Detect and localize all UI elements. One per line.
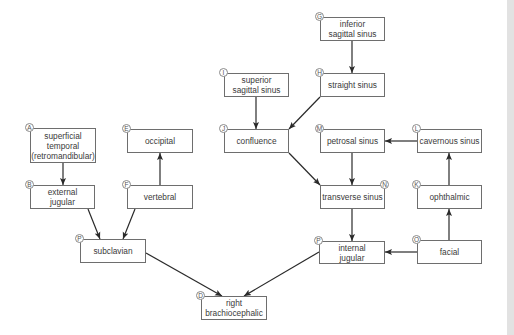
node-label: superior sagittal sinus: [233, 75, 281, 95]
node-label: inferior sagittal sinus: [329, 19, 377, 39]
node-label: straight sinus: [328, 80, 377, 90]
arrow-b-to-p1: [88, 209, 100, 239]
arrow-p1-to-d: [146, 253, 222, 296]
node-vertebral: vertebral: [127, 185, 193, 209]
node-label: cavernous sinus: [420, 136, 480, 146]
node-letter-badge: P: [75, 234, 84, 243]
node-straight-sinus: straight sinus: [320, 73, 385, 97]
node-facial: facial: [417, 240, 482, 264]
node-label: internal jugular: [338, 243, 365, 263]
node-label: external jugular: [48, 187, 78, 207]
node-letter-badge: F: [122, 180, 131, 189]
node-label: ophthalmic: [429, 192, 469, 202]
node-inferior-sagittal-sinus: inferior sagittal sinus: [320, 17, 385, 41]
node-letter-badge: M: [315, 124, 324, 133]
node-external-jugular: external jugular: [30, 185, 95, 209]
node-letter-badge: B: [25, 180, 34, 189]
venous-drainage-diagram: superficial temporal (retromandibular)Ae…: [0, 0, 514, 335]
node-subclavian: subclavian: [80, 239, 146, 263]
node-label: right brachiocephalic: [205, 298, 263, 318]
node-letter-badge: P: [314, 236, 323, 245]
node-label: vertebral: [144, 192, 176, 202]
arrow-j-to-n: [289, 153, 320, 185]
node-label: superficial temporal (retromandibular): [31, 131, 95, 161]
arrow-f-to-p1: [123, 209, 135, 239]
node-letter-badge: E: [122, 124, 131, 133]
node-letter-badge: I: [219, 68, 228, 77]
node-right-brachiocephalic: right brachiocephalic: [201, 296, 267, 320]
node-letter-badge: O: [412, 235, 421, 244]
scrollbar-strip: [507, 0, 514, 335]
node-letter-badge: A: [25, 123, 34, 132]
arrow-p2-to-d: [244, 252, 319, 296]
node-superior-sagittal-sinus: superior sagittal sinus: [224, 73, 289, 97]
node-label: petrosal sinus: [327, 136, 378, 146]
node-letter-badge: N: [380, 180, 389, 189]
node-letter-badge: H: [315, 68, 324, 77]
node-letter-badge: J: [219, 124, 228, 133]
node-letter-badge: G: [315, 12, 324, 21]
arrow-layer: [0, 0, 514, 335]
node-petrosal-sinus: petrosal sinus: [320, 129, 385, 153]
node-letter-badge: K: [412, 180, 421, 189]
node-label: transverse sinus: [322, 192, 382, 202]
arrow-h-to-j: [289, 97, 320, 129]
node-cavernous-sinus: cavernous sinus: [417, 129, 482, 153]
node-label: subclavian: [93, 246, 132, 256]
node-letter-badge: D: [196, 291, 205, 300]
node-label: confluence: [236, 136, 276, 146]
node-transverse-sinus: transverse sinus: [320, 185, 385, 209]
node-label: occipital: [145, 136, 175, 146]
node-internal-jugular: internal jugular: [319, 241, 385, 264]
node-label: facial: [440, 247, 459, 257]
node-confluence: confluence: [224, 129, 289, 153]
node-superficial-temporal-retromandibular: superficial temporal (retromandibular): [30, 128, 96, 163]
node-occipital: occipital: [127, 129, 193, 153]
node-ophthalmic: ophthalmic: [417, 185, 482, 209]
node-letter-badge: L: [412, 124, 421, 133]
